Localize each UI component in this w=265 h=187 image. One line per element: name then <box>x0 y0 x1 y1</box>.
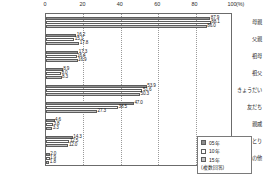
x-tick-label: 0 <box>44 1 47 8</box>
bar <box>46 127 52 130</box>
bar <box>46 25 207 28</box>
x-tick-label: 60 <box>154 1 160 8</box>
bar <box>46 51 78 54</box>
bar <box>46 161 49 164</box>
bar <box>46 76 62 79</box>
legend-item-10: 10年 <box>201 148 248 155</box>
bar-value-label: 27.3 <box>98 108 106 113</box>
legend-item-15: 15年 <box>201 156 248 163</box>
bar-value-label: 16.9 <box>78 57 86 62</box>
bar <box>46 42 79 45</box>
gridline <box>158 14 159 165</box>
bar <box>46 136 73 139</box>
bar <box>46 89 142 92</box>
bar-value-label: 17.8 <box>80 40 88 45</box>
bar-value-label: 8.3 <box>62 74 68 79</box>
bar <box>46 34 76 37</box>
legend-label-05: 05年 <box>209 140 220 146</box>
bar <box>46 140 69 143</box>
category-label: 母親 <box>252 19 262 25</box>
bar-value-label: 1.8 <box>50 159 56 164</box>
bar-value-label: 3.3 <box>53 125 59 130</box>
category-label: 親戚 <box>252 121 262 127</box>
bar-value-label: 86.0 <box>207 23 215 28</box>
bar-value-label: 47.0 <box>134 100 142 105</box>
x-axis: 020406080100 <box>45 0 232 13</box>
bar <box>46 17 210 20</box>
bar-value-label: 12.0 <box>69 142 77 147</box>
bar <box>46 85 147 88</box>
bar <box>46 21 211 24</box>
x-tick-label: 40 <box>117 1 123 8</box>
bar <box>46 106 118 109</box>
legend-label-15: 15年 <box>209 157 220 163</box>
legend-swatch-icon-05 <box>201 140 206 145</box>
bar-value-label: 50.3 <box>141 91 149 96</box>
category-label: きょうだい <box>237 87 262 93</box>
bar <box>46 93 140 96</box>
legend-swatch-icon-15 <box>201 157 206 162</box>
bar <box>46 59 78 62</box>
legend-label-10: 10年 <box>209 148 220 154</box>
bar-value-label: 38.5 <box>118 104 126 109</box>
bar-chart: 020406080100 母親父親祖母祖父きょうだい友だち親戚お子様ひとりその他… <box>0 0 265 187</box>
x-tick-label: 20 <box>79 1 85 8</box>
legend: 05年 10年 15年 (複数回答) <box>197 136 252 174</box>
bar <box>46 38 74 41</box>
x-tick-label: 80 <box>192 1 198 8</box>
legend-note: (複数回答) <box>201 165 248 171</box>
bar <box>46 55 77 58</box>
bar <box>46 110 97 113</box>
legend-swatch-icon-10 <box>201 149 206 154</box>
legend-item-05: 05年 <box>201 139 248 146</box>
category-label: 祖父 <box>252 70 262 76</box>
bar <box>46 68 63 71</box>
bar <box>46 72 61 75</box>
category-label: 父親 <box>252 36 262 42</box>
category-label: 友だち <box>247 104 262 110</box>
category-label: 祖母 <box>252 53 262 59</box>
bar <box>46 144 68 147</box>
x-axis-unit-label: (%) <box>236 1 244 8</box>
